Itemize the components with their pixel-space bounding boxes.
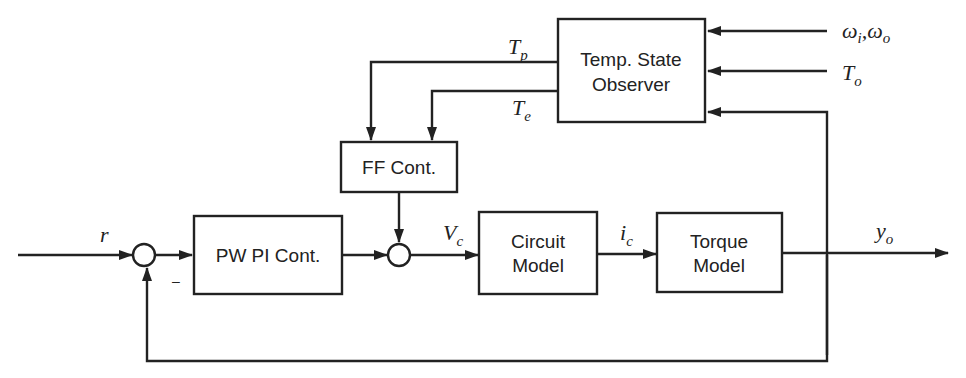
- ff-controller-block: FF Cont.: [341, 142, 457, 192]
- observer-label-line2: Observer: [592, 74, 671, 95]
- te-signal-arrow: [432, 91, 558, 140]
- yo-label: yo: [874, 218, 894, 247]
- te-label: Te: [512, 95, 531, 124]
- temp-state-observer-block: Temp. State Observer: [558, 19, 705, 122]
- torque-model-block: Torque Model: [657, 213, 782, 292]
- torque-label-line1: Torque: [690, 231, 748, 252]
- pw-pi-controller-block: PW PI Cont.: [194, 216, 342, 294]
- ff-label: FF Cont.: [362, 157, 436, 178]
- ic-label: ic: [620, 220, 633, 249]
- vc-label: Vc: [443, 220, 463, 249]
- summing-junction-2: [388, 244, 410, 266]
- control-block-diagram: Temp. State Observer ωi,ωo To Tp Te FF C…: [0, 0, 966, 378]
- omega-label: ωi,ωo: [842, 18, 891, 46]
- r-label: r: [100, 222, 109, 247]
- tp-signal-arrow: [371, 62, 558, 140]
- circuit-model-block: Circuit Model: [479, 212, 597, 294]
- circuit-label-line2: Model: [512, 255, 564, 276]
- to-label: To: [842, 60, 862, 89]
- observer-label-line1: Temp. State: [580, 49, 681, 70]
- circuit-label-line1: Circuit: [511, 231, 566, 252]
- tp-label: Tp: [508, 34, 528, 63]
- summing-junction-1: [133, 244, 155, 266]
- pi-label: PW PI Cont.: [216, 245, 321, 266]
- minus-sign: –: [172, 273, 180, 289]
- torque-label-line2: Model: [693, 255, 745, 276]
